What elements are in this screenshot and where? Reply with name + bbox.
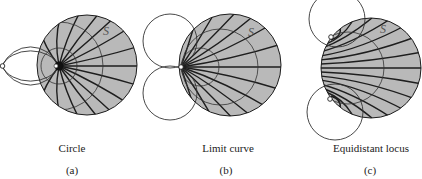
set-label-b: S — [248, 25, 254, 39]
set-label-a: S — [103, 24, 109, 38]
caption-b-title: Limit curve — [202, 142, 254, 154]
panel-a-diagram: S — [0, 12, 140, 120]
point-a-left — [0, 64, 5, 69]
caption-a-title: Circle — [59, 142, 86, 154]
point-c-lower — [328, 97, 333, 102]
caption-b-label: (b) — [220, 164, 233, 176]
panel-b-diagram: S — [143, 12, 282, 122]
point-c-upper — [329, 35, 334, 40]
caption-c-label: (c) — [364, 164, 376, 176]
caption-c-title: Equidistant locus — [333, 142, 409, 154]
set-label-c: S — [380, 22, 386, 36]
panel-c-diagram: S — [307, 0, 422, 140]
caption-a-label: (a) — [66, 164, 78, 176]
ideal-point-b — [179, 65, 184, 70]
